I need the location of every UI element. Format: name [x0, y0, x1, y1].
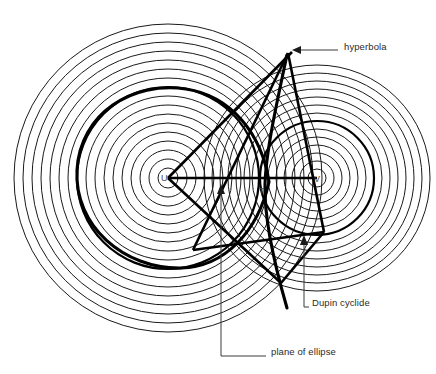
dupin-cyclide-diagram: U T V hyperbola Dupin cyclide plane of e… — [0, 0, 436, 374]
arrowhead-hyperbola-icon — [292, 46, 301, 54]
callout-leader-dupin-cyclide — [300, 235, 309, 307]
line-upper-to-lower-right — [288, 53, 324, 232]
callout-leader-hyperbola — [292, 46, 338, 54]
construction-lines — [168, 52, 324, 283]
diagram-canvas: U T V — [0, 0, 436, 374]
point-label-t: T — [259, 186, 265, 196]
callout-label-plane-of-ellipse: plane of ellipse — [271, 346, 336, 357]
point-label-u: U — [161, 173, 168, 183]
callout-label-dupin-cyclide: Dupin cyclide — [312, 297, 370, 308]
callout-label-hyperbola: hyperbola — [344, 41, 387, 52]
point-label-v: V — [314, 174, 320, 184]
